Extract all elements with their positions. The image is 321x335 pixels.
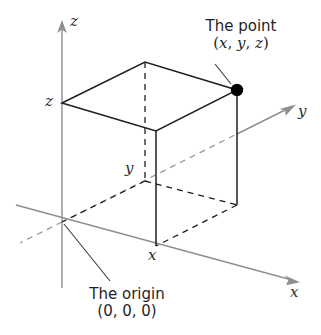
point-annotation-coords: (x, y, z) xyxy=(181,35,301,52)
coords-sep-2: , xyxy=(246,34,256,52)
coordinate-system-figure: z y x z y x The point (x, y, z) The orig… xyxy=(0,0,321,335)
measure-label-y: y xyxy=(125,160,133,177)
origin-leader-line xyxy=(64,224,110,281)
box-base-edge-front-right xyxy=(156,205,237,246)
origin-annotation: The origin (0, 0, 0) xyxy=(62,286,192,320)
y-axis-negative-tail xyxy=(20,222,62,243)
y-axis-line-hidden xyxy=(62,134,237,222)
coords-sep-1: , xyxy=(227,34,237,52)
point-annotation: The point (x, y, z) xyxy=(181,18,301,52)
origin-annotation-line1: The origin xyxy=(89,285,164,303)
box-group xyxy=(62,62,237,246)
measure-label-z: z xyxy=(45,93,53,110)
point-leader-line xyxy=(215,64,231,84)
axis-label-z: z xyxy=(70,13,78,30)
axes-group xyxy=(16,20,300,288)
box-top-face xyxy=(62,62,237,131)
point-annotation-line1: The point xyxy=(206,17,277,35)
coords-close-paren: ) xyxy=(263,34,269,52)
axis-label-y: y xyxy=(298,103,306,120)
coords-y: y xyxy=(237,34,245,52)
measure-label-x: x xyxy=(148,247,156,264)
y-axis-line-visible xyxy=(237,108,289,134)
origin-annotation-coords: (0, 0, 0) xyxy=(62,303,192,320)
box-base-edge-back-right xyxy=(145,181,237,205)
axis-label-x: x xyxy=(290,284,298,301)
box-base-edge-back-left xyxy=(62,181,145,222)
coords-z: z xyxy=(255,34,263,52)
point-marker-dot xyxy=(231,84,243,96)
y-axis-arrowhead xyxy=(280,104,296,115)
x-axis-line xyxy=(16,205,292,280)
